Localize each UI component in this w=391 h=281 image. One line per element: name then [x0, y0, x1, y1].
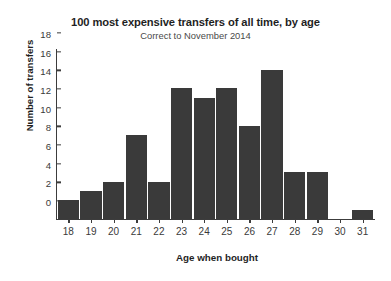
bar-chart: 100 most expensive transfers of all time… [0, 0, 391, 281]
y-axis-tick-mark [57, 88, 61, 89]
y-axis-tick-mark [57, 70, 61, 71]
y-axis-tick-mark [57, 126, 61, 127]
x-axis-tick-label: 28 [289, 226, 300, 237]
x-axis-tick-label: 29 [312, 226, 323, 237]
bar-age-19 [80, 191, 101, 219]
y-axis-tick-label: 18 [40, 29, 51, 40]
y-axis-tick-label: 6 [46, 141, 51, 152]
bar-age-31 [352, 210, 373, 219]
bar-age-23 [171, 88, 192, 219]
chart-title: 100 most expensive transfers of all time… [0, 16, 391, 28]
y-axis-tick: 4 [46, 155, 57, 173]
y-axis-tick: 2 [46, 173, 57, 191]
y-axis-tick: 8 [46, 117, 57, 135]
x-axis-tick-mark [114, 219, 115, 223]
y-axis-tick-label: 8 [46, 122, 51, 133]
x-axis-tick-label: 25 [221, 226, 232, 237]
bar-age-26 [239, 126, 260, 219]
x-axis-tick-label: 23 [176, 226, 187, 237]
x-axis-tick-mark [204, 219, 205, 223]
x-axis-tick-label: 27 [267, 226, 278, 237]
y-axis-tick-mark [57, 32, 61, 33]
bar-age-27 [261, 70, 282, 219]
x-axis-tick-mark [317, 219, 318, 223]
y-axis-tick: 18 [40, 24, 57, 42]
y-axis-tick-mark [57, 163, 61, 164]
y-axis-tick-label: 14 [40, 66, 51, 77]
y-axis-tick-label: 4 [46, 160, 51, 171]
x-axis-tick-label: 26 [244, 226, 255, 237]
y-axis-tick: 14 [40, 61, 57, 79]
x-axis-tick-label: 31 [357, 226, 368, 237]
bar-age-18 [58, 200, 79, 219]
bar-age-25 [216, 88, 237, 219]
x-axis-title: Age when bought [57, 252, 377, 263]
x-axis-tick-label: 21 [131, 226, 142, 237]
y-axis-tick-label: 16 [40, 48, 51, 59]
bar-age-21 [126, 135, 147, 219]
y-axis-tick-label: 10 [40, 104, 51, 115]
x-axis-tick-mark [68, 219, 69, 223]
y-axis-tick: 12 [40, 80, 57, 98]
y-axis-tick-mark [57, 107, 61, 108]
y-axis-tick-mark [57, 144, 61, 145]
bar-age-29 [307, 172, 328, 219]
x-axis-tick-mark [182, 219, 183, 223]
x-axis-tick-mark [295, 219, 296, 223]
x-axis-tick-mark [249, 219, 250, 223]
x-axis-tick-mark [91, 219, 92, 223]
y-axis-tick-label: 2 [46, 178, 51, 189]
y-axis-tick-mark [57, 182, 61, 183]
x-axis-tick-mark [159, 219, 160, 223]
bar-age-20 [103, 182, 124, 219]
x-axis-tick-mark [272, 219, 273, 223]
x-axis-tick-label: 18 [63, 226, 74, 237]
x-axis-tick-label: 22 [153, 226, 164, 237]
y-axis-tick: 6 [46, 136, 57, 154]
x-axis-tick-mark [227, 219, 228, 223]
y-axis-tick: 10 [40, 99, 57, 117]
x-axis-tick-mark [363, 219, 364, 223]
bar-age-22 [148, 182, 169, 219]
x-axis-tick-label: 19 [85, 226, 96, 237]
y-axis-tick-label: 12 [40, 85, 51, 96]
x-axis-tick-mark [340, 219, 341, 223]
x-axis-tick-label: 20 [108, 226, 119, 237]
x-axis-tick-mark [136, 219, 137, 223]
x-axis-tick-label: 30 [334, 226, 345, 237]
y-axis-tick: 0 [46, 192, 57, 210]
bar-age-24 [194, 98, 215, 219]
y-axis-tick-label: 0 [46, 197, 51, 208]
y-axis-tick: 16 [40, 43, 57, 61]
y-axis-title: Number of transfers [24, 11, 35, 161]
bar-age-28 [284, 172, 305, 219]
x-axis-tick-label: 24 [199, 226, 210, 237]
y-axis-tick-mark [57, 51, 61, 52]
plot-area: 024681012141618 [57, 51, 374, 219]
